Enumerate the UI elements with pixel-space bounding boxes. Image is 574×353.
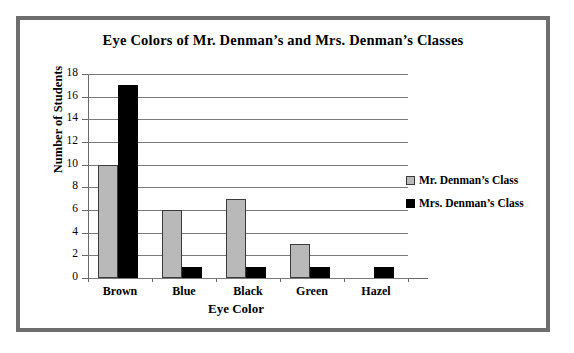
bar-black-series0	[226, 199, 246, 278]
y-tick-label: 12	[48, 134, 78, 146]
x-tick-label-green: Green	[280, 284, 344, 299]
y-tick-label: 4	[48, 225, 78, 237]
x-axis-label: Eye Color	[76, 301, 396, 317]
legend-swatch-icon	[406, 199, 415, 208]
x-tick-label-black: Black	[216, 284, 280, 299]
chart-legend: Mr. Denman’s ClassMrs. Denman’s Class	[406, 174, 546, 220]
legend-label: Mrs. Denman’s Class	[419, 197, 524, 209]
x-tick-mark	[344, 278, 345, 282]
y-tick-label: 10	[48, 157, 78, 169]
x-tick-label-brown: Brown	[88, 284, 152, 299]
plot-area	[88, 74, 408, 278]
x-tick-label-hazel: Hazel	[344, 284, 408, 299]
legend-swatch-icon	[406, 176, 415, 185]
y-tick-label: 8	[48, 179, 78, 191]
y-tick-label: 2	[48, 247, 78, 259]
bar-brown-series1	[118, 85, 138, 278]
bar-green-series1	[310, 267, 330, 278]
bar-green-series0	[290, 244, 310, 278]
legend-label: Mr. Denman’s Class	[419, 174, 518, 186]
gridline	[88, 278, 408, 279]
y-tick-label: 18	[48, 66, 78, 78]
y-tick-label: 0	[48, 270, 78, 282]
y-tick-label: 16	[48, 89, 78, 101]
legend-item-series1: Mrs. Denman’s Class	[406, 197, 546, 209]
y-tick-label: 6	[48, 202, 78, 214]
bar-blue-series1	[182, 267, 202, 278]
bar-hazel-series1	[374, 267, 394, 278]
y-tick-label: 14	[48, 111, 78, 123]
legend-item-series0: Mr. Denman’s Class	[406, 174, 546, 186]
bar-blue-series0	[162, 210, 182, 278]
bar-brown-series0	[98, 165, 118, 278]
bar-black-series1	[246, 267, 266, 278]
x-tick-mark	[280, 278, 281, 282]
x-tick-mark	[88, 278, 89, 282]
x-tick-mark	[408, 278, 409, 282]
plot-wrapper: Number of Students 181614121086420 Brown…	[20, 20, 546, 328]
x-tick-mark	[216, 278, 217, 282]
x-tick-label-blue: Blue	[152, 284, 216, 299]
chart-frame: Eye Colors of Mr. Denman’s and Mrs. Denm…	[16, 16, 550, 332]
x-tick-mark	[152, 278, 153, 282]
